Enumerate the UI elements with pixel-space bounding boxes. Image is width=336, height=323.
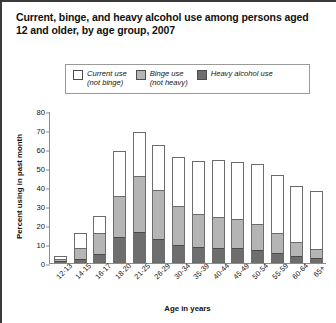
bar-column[interactable] xyxy=(113,112,126,263)
bar-column[interactable] xyxy=(74,112,87,263)
bar-column[interactable] xyxy=(152,112,165,263)
y-axis-tick-label: 40 xyxy=(23,184,45,193)
bar-segment-binge-use xyxy=(213,217,224,248)
stacked-bar[interactable] xyxy=(251,164,264,263)
stacked-bar[interactable] xyxy=(271,175,284,263)
bar-column[interactable] xyxy=(231,112,244,263)
bar-segment-current-use xyxy=(213,161,224,217)
bar-segment-heavy-use xyxy=(153,239,164,262)
bar-segment-current-use xyxy=(173,158,184,206)
bar-segment-current-use xyxy=(94,217,105,232)
bar-column[interactable] xyxy=(133,112,146,263)
y-axis-tick-label: 30 xyxy=(23,203,45,212)
bar-segment-current-use xyxy=(114,152,125,196)
legend-swatch-current-use-icon xyxy=(73,70,83,80)
bar-segment-current-use xyxy=(193,162,204,215)
x-axis-tick-label: 50-54 xyxy=(251,261,271,281)
bar-segment-binge-use xyxy=(173,206,184,245)
stacked-bar[interactable] xyxy=(74,233,87,263)
bar-column[interactable] xyxy=(192,112,205,263)
bar-segment-current-use xyxy=(232,163,243,220)
chart-legend: Current use (not binge) Binge use (not h… xyxy=(65,64,310,94)
y-axis-tick-label: 0 xyxy=(23,260,45,269)
bar-column[interactable] xyxy=(251,112,264,263)
bar-segment-heavy-use xyxy=(252,250,263,262)
bar-segment-heavy-use xyxy=(213,248,224,262)
bar-column[interactable] xyxy=(212,112,225,263)
x-axis-tick-label: 35-39 xyxy=(192,261,212,281)
bar-segment-heavy-use xyxy=(114,237,125,262)
plot-area: Percent using in past month 010203040506… xyxy=(2,98,336,323)
chart-page: Current, binge, and heavy alcohol use am… xyxy=(0,0,336,323)
x-axis-tick-label: 14-15 xyxy=(74,261,94,281)
bar-segment-heavy-use xyxy=(272,253,283,262)
bar-segment-heavy-use xyxy=(193,247,204,262)
stacked-bar[interactable] xyxy=(152,145,165,263)
x-axis-title: Age in years xyxy=(49,304,326,313)
y-axis-tick-label: 80 xyxy=(23,108,45,117)
legend-label-current-use: Current use (not binge) xyxy=(87,69,127,87)
bar-segment-current-use xyxy=(291,187,302,241)
bar-segment-heavy-use xyxy=(75,259,86,262)
legend-item-binge-use: Binge use (not heavy) xyxy=(136,69,188,87)
bar-segment-binge-use xyxy=(291,242,302,256)
x-axis-tick-label: 45-49 xyxy=(231,261,251,281)
stacked-bar[interactable] xyxy=(133,132,146,263)
bar-segment-binge-use xyxy=(134,176,145,232)
x-axis-tick-label: 21-25 xyxy=(133,261,153,281)
x-axis-tick-label: 40-44 xyxy=(211,261,231,281)
stacked-bar[interactable] xyxy=(290,186,303,263)
x-axis-tick-label: 16-17 xyxy=(93,261,113,281)
y-axis-tick-mark xyxy=(46,264,50,265)
legend-label-binge-use: Binge use (not heavy) xyxy=(150,69,188,87)
legend-swatch-binge-use-icon xyxy=(136,70,146,80)
bar-column[interactable] xyxy=(172,112,185,263)
legend-item-current-use: Current use (not binge) xyxy=(73,69,127,87)
bar-segment-binge-use xyxy=(114,196,125,237)
y-axis-tick-label: 50 xyxy=(23,165,45,174)
bar-segment-binge-use xyxy=(153,190,164,239)
bar-segment-binge-use xyxy=(311,249,322,258)
legend-swatch-heavy-use-icon xyxy=(197,70,207,80)
bar-segment-current-use xyxy=(134,133,145,176)
stacked-bar[interactable] xyxy=(93,216,106,263)
bar-column[interactable] xyxy=(271,112,284,263)
bar-column[interactable] xyxy=(290,112,303,263)
bar-column[interactable] xyxy=(93,112,106,263)
bar-column[interactable] xyxy=(54,112,67,263)
bar-series-container xyxy=(50,112,326,263)
bar-segment-current-use xyxy=(272,176,283,233)
stacked-bar[interactable] xyxy=(172,157,185,263)
x-axis-tick-label: 12-13 xyxy=(54,261,74,281)
legend-item-heavy-use: Heavy alcohol use xyxy=(197,69,273,80)
bar-segment-heavy-use xyxy=(55,261,66,262)
bar-segment-heavy-use xyxy=(291,256,302,262)
y-axis-tick-label: 60 xyxy=(23,146,45,155)
bar-segment-heavy-use xyxy=(173,245,184,262)
x-axis-tick-label: 65+ xyxy=(312,264,327,279)
bar-segment-heavy-use xyxy=(94,254,105,262)
x-axis-tick-label: 60-64 xyxy=(290,261,310,281)
bar-segment-binge-use xyxy=(75,248,86,259)
stacked-bar[interactable] xyxy=(113,151,126,263)
bar-segment-current-use xyxy=(75,234,86,248)
legend-label-heavy-use: Heavy alcohol use xyxy=(211,69,273,78)
x-axis-tick-label: 30-34 xyxy=(172,261,192,281)
stacked-bar[interactable] xyxy=(192,161,205,263)
x-axis-tick-label: 55-59 xyxy=(270,261,290,281)
bar-segment-heavy-use xyxy=(232,248,243,262)
y-axis-tick-label: 20 xyxy=(23,222,45,231)
bar-column[interactable] xyxy=(310,112,323,263)
stacked-bar[interactable] xyxy=(231,162,244,263)
x-axis-tick-label: 18-20 xyxy=(113,261,133,281)
stacked-bar[interactable] xyxy=(310,191,323,263)
bar-segment-binge-use xyxy=(252,224,263,250)
bar-segment-binge-use xyxy=(193,214,204,247)
y-axis-tick-label: 70 xyxy=(23,127,45,136)
page-title: Current, binge, and heavy alcohol use am… xyxy=(16,11,316,37)
axes: 01020304050607080 xyxy=(49,112,326,264)
bar-segment-heavy-use xyxy=(134,232,145,262)
stacked-bar[interactable] xyxy=(212,160,225,263)
bar-segment-current-use xyxy=(153,146,164,190)
bar-segment-binge-use xyxy=(232,219,243,248)
